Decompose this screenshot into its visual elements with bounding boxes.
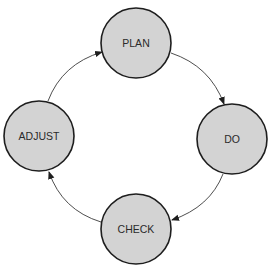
node-check: CHECK xyxy=(101,194,171,264)
arrow-adjust-to-plan xyxy=(48,52,102,101)
arrow-check-to-adjust xyxy=(49,172,101,222)
arrow-plan-to-do xyxy=(171,53,224,104)
pdca-cycle-diagram: PLAN DO CHECK ADJUST xyxy=(0,0,271,266)
node-adjust-label: ADJUST xyxy=(19,130,60,142)
node-check-label: CHECK xyxy=(118,223,155,235)
node-do: DO xyxy=(197,104,267,174)
node-do-label: DO xyxy=(224,133,240,145)
arrow-do-to-check xyxy=(172,174,223,220)
node-adjust: ADJUST xyxy=(4,101,74,171)
node-plan-label: PLAN xyxy=(122,37,149,49)
node-plan: PLAN xyxy=(101,8,171,78)
